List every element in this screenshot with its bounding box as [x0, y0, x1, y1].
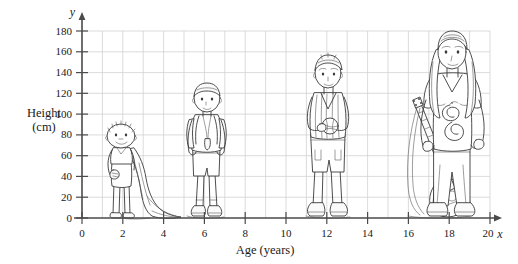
x-tick-label: 10 [281, 227, 293, 239]
y-tick-label: 40 [61, 170, 73, 182]
y-tick-label: 140 [56, 66, 73, 78]
y-tick-label: 60 [61, 149, 73, 161]
y-tick-label: 120 [56, 87, 73, 99]
x-tick-label: 14 [362, 227, 374, 239]
figure-child-age-6 [187, 83, 227, 218]
y-axis-title-line1: Height [27, 106, 62, 120]
growth-chart-figure: 0 20 40 60 80 100 120 140 160 180 0 2 4 … [0, 0, 518, 264]
y-tick-label: 0 [67, 212, 73, 224]
x-tick-label: 12 [321, 227, 332, 239]
x-axis-tick-labels: 0 2 4 6 8 10 12 14 16 18 20 [79, 227, 494, 239]
x-axis-name: x [496, 227, 503, 241]
x-tick-label: 20 [483, 227, 495, 239]
y-axis-arrowhead [79, 12, 86, 20]
y-tick-label: 180 [56, 25, 73, 37]
chart-canvas: 0 20 40 60 80 100 120 140 160 180 0 2 4 … [0, 0, 518, 264]
x-tick-label: 8 [242, 227, 248, 239]
x-tick-label: 6 [202, 227, 208, 239]
x-tick-label: 16 [403, 227, 415, 239]
y-tick-label: 20 [61, 191, 73, 203]
y-axis-title-line2: (cm) [32, 120, 56, 134]
x-tick-label: 0 [79, 227, 85, 239]
y-axis-tick-labels: 0 20 40 60 80 100 120 140 160 180 [56, 25, 73, 224]
x-tick-label: 2 [120, 227, 126, 239]
x-axis-arrowhead [494, 215, 502, 222]
x-tick-label: 4 [161, 227, 167, 239]
y-axis-name: y [69, 5, 76, 19]
x-tick-label: 18 [444, 227, 456, 239]
x-axis-title: Age (years) [236, 243, 295, 257]
figure-teen-age-18 [407, 31, 484, 218]
y-tick-label: 160 [56, 45, 73, 57]
y-tick-label: 80 [61, 128, 73, 140]
figure-preteen-age-12 [306, 53, 350, 218]
